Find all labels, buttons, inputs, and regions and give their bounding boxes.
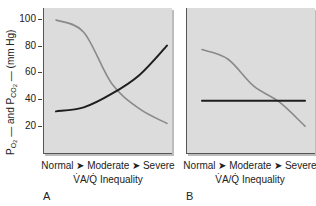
y-tick-label: 40 <box>14 93 36 104</box>
y-axis-label: PO2 — and PCO2 — (mm Hg) <box>2 10 18 155</box>
panel-label-a: A <box>43 190 50 202</box>
chart-panel-a <box>43 8 172 154</box>
x-axis-title-b: V̇A/Q̇ Inequality <box>180 174 316 185</box>
y-tick-mark <box>38 72 42 73</box>
panel-label-b: B <box>186 190 193 202</box>
y-tick-mark <box>38 99 42 100</box>
y-tick-label: 100 <box>14 13 36 24</box>
y-tick-mark <box>38 126 42 127</box>
y-tick-mark <box>38 46 42 47</box>
plot-area-a <box>44 8 172 153</box>
y-tick-mark <box>38 19 42 20</box>
pco2-line <box>56 46 167 112</box>
plot-area-b <box>187 8 315 153</box>
chart-panel-b <box>186 8 315 154</box>
po2-line <box>202 50 305 127</box>
x-axis-categories-a: Normal ➤ Moderate ➤ Severe <box>38 160 178 171</box>
y-tick-label: 60 <box>14 66 36 77</box>
x-axis-title-a: V̇A/Q̇ Inequality <box>38 174 178 185</box>
x-axis-categories-b: Normal ➤ Moderate ➤ Severe <box>180 160 316 171</box>
y-tick-label: 20 <box>14 120 36 131</box>
po2-line <box>56 20 167 123</box>
y-tick-label: 80 <box>14 40 36 51</box>
